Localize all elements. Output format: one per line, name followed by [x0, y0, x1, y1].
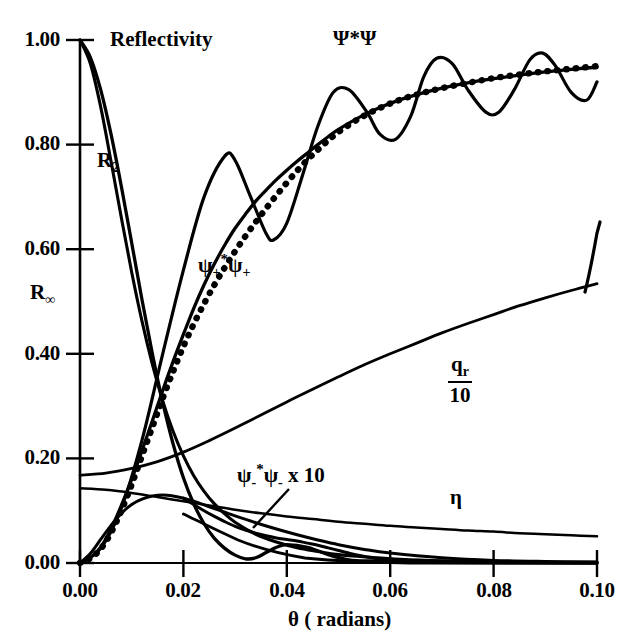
psi-minus-leader-line: [253, 489, 289, 528]
y-tick-label-0_80: 0.80: [0, 131, 60, 156]
curve-r-2: [80, 40, 597, 563]
curve-psi-minus-main: [80, 495, 597, 563]
curve-psi-star-psi-tail: [585, 222, 600, 292]
label-psi-minus-tail: x 10: [283, 463, 325, 487]
label-psi-minus-base1: ψ: [237, 463, 251, 487]
label-r-infinity: R∞: [30, 282, 55, 307]
label-psi-minus-base2: ψ: [264, 463, 278, 487]
fraction-qr-10: qr 10: [448, 353, 472, 406]
x-tick-label-0_10: 0.10: [562, 578, 632, 603]
curve-psi-plus-dotted: [80, 66, 597, 563]
curve-psi-plus-solid: [80, 67, 597, 563]
label-rinf-sub: ∞: [45, 292, 55, 307]
x-tick-label-0_02: 0.02: [148, 578, 218, 603]
label-qr-over-10: qr 10: [448, 353, 472, 406]
fraction-num-base: q: [451, 352, 463, 376]
y-tick-label-0_20: 0.20: [0, 445, 60, 470]
y-tick-label-0_00: 0.00: [0, 550, 60, 575]
label-eta: η: [450, 487, 462, 508]
label-r2: R2: [97, 150, 119, 175]
x-axis-title: θ ( radians): [288, 607, 391, 632]
label-r2-base: R: [97, 148, 112, 172]
label-psi-plus-sub1: +: [212, 265, 220, 280]
label-psi-plus-base1: ψ: [198, 253, 212, 277]
label-rinf-base: R: [30, 280, 45, 304]
fraction-num-sub: r: [463, 364, 469, 379]
label-psi-minus: ψ-*ψ- x 10: [237, 462, 325, 490]
curve-r-infinity: [80, 40, 597, 563]
y-tick-label-0_40: 0.40: [0, 341, 60, 366]
x-tick-label-0_08: 0.08: [459, 578, 529, 603]
x-tick-label-0_00: 0.00: [45, 578, 115, 603]
label-psi-plus-star: *: [220, 251, 228, 267]
label-psi-star-psi: Ψ*Ψ: [333, 28, 376, 49]
label-psi-minus-star: *: [256, 461, 264, 477]
label-psi-minus-sub1: -: [251, 475, 256, 490]
y-tick-label-1_00: 1.00: [0, 27, 60, 52]
label-r2-sub: 2: [112, 160, 119, 175]
plot-canvas: [0, 0, 635, 641]
x-tick-label-0_04: 0.04: [252, 578, 322, 603]
y-axis-title: Reflectivity: [110, 27, 213, 52]
fraction-numerator: qr: [448, 353, 472, 383]
label-psi-plus-sub2: +: [242, 265, 250, 280]
y-tick-label-0_60: 0.60: [0, 236, 60, 261]
fraction-denominator: 10: [448, 383, 472, 406]
label-psi-plus: ψ+*ψ+: [198, 252, 250, 280]
axis-lines: [80, 40, 597, 563]
label-psi-plus-base2: ψ: [228, 253, 242, 277]
reflectivity-figure: 1.00 0.80 0.60 0.40 0.20 0.00 0.00 0.02 …: [0, 0, 635, 641]
x-tick-label-0_06: 0.06: [355, 578, 425, 603]
